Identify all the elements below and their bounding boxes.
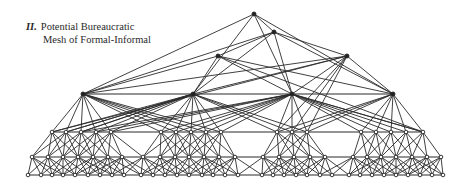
mesh-edge: [83, 32, 274, 94]
mesh-node: [318, 173, 322, 177]
mesh-node: [391, 92, 395, 96]
mesh-edge: [143, 132, 176, 157]
mesh-edge: [391, 94, 393, 132]
mesh-node: [290, 92, 294, 96]
mesh-node: [189, 130, 193, 134]
mesh-node: [394, 173, 398, 177]
mesh-edge: [320, 157, 353, 175]
mesh-node: [223, 173, 227, 177]
mesh-node: [187, 173, 191, 177]
mesh-edge: [279, 132, 292, 157]
bureaucratic-mesh-diagram: [0, 0, 471, 191]
mesh-node: [441, 173, 445, 177]
mesh-node: [26, 173, 30, 177]
mesh-edges: [28, 14, 443, 175]
mesh-edge: [189, 132, 206, 157]
mesh-edge: [160, 132, 176, 157]
mesh-node: [236, 173, 240, 177]
mesh-edge: [279, 132, 307, 157]
mesh-edge: [396, 132, 406, 157]
mesh-edge: [441, 157, 443, 175]
mesh-node: [204, 130, 208, 134]
mesh-node: [30, 155, 34, 159]
mesh-edge: [263, 132, 277, 157]
mesh-node: [382, 173, 386, 177]
mesh-node: [404, 130, 408, 134]
mesh-node: [175, 173, 179, 177]
mesh-node: [410, 155, 414, 159]
mesh-node: [439, 155, 443, 159]
mesh-node: [294, 173, 298, 177]
mesh-edge: [175, 132, 191, 157]
mesh-node: [359, 130, 363, 134]
mesh-edge: [111, 132, 143, 157]
mesh-node: [61, 155, 65, 159]
mesh-node: [217, 155, 221, 159]
mesh-node: [216, 54, 220, 58]
mesh-node: [187, 155, 191, 159]
mesh-node: [347, 173, 351, 177]
mesh-node: [76, 155, 80, 159]
mesh-edge: [204, 132, 221, 157]
mesh-edge: [274, 32, 292, 94]
mesh-node: [173, 155, 177, 159]
mesh-node: [379, 155, 383, 159]
mesh-node: [308, 155, 312, 159]
mesh-node: [109, 130, 113, 134]
mesh-edge: [235, 157, 262, 175]
mesh-node: [425, 155, 429, 159]
mesh-node: [282, 173, 286, 177]
mesh-node: [211, 173, 215, 177]
mesh-node: [406, 173, 410, 177]
mesh-node: [219, 130, 223, 134]
mesh-node: [110, 173, 114, 177]
mesh-node: [61, 173, 65, 177]
mesh-edge: [423, 132, 441, 157]
mesh-node: [233, 155, 237, 159]
mesh-node: [261, 155, 265, 159]
mesh-node: [305, 173, 309, 177]
mesh-node: [358, 173, 362, 177]
mesh-node: [305, 130, 309, 134]
mesh-edge: [221, 94, 292, 132]
mesh-node: [86, 173, 90, 177]
mesh-node: [200, 173, 204, 177]
mesh-node: [290, 130, 294, 134]
mesh-node: [374, 130, 378, 134]
mesh-node: [202, 155, 206, 159]
mesh-node: [351, 155, 355, 159]
mesh-node: [94, 130, 98, 134]
mesh-node: [275, 130, 279, 134]
mesh-node: [73, 173, 77, 177]
mesh-node: [323, 155, 327, 159]
mesh-node: [81, 92, 85, 96]
org-mesh-figure: II.Potential Bureaucratic Mesh of Formal…: [0, 0, 471, 191]
mesh-edge: [52, 94, 83, 132]
mesh-edge: [143, 132, 161, 157]
mesh-edge: [254, 14, 274, 32]
mesh-edge: [221, 132, 235, 157]
mesh-node: [370, 173, 374, 177]
mesh-node: [389, 130, 393, 134]
mesh-edge: [81, 94, 83, 132]
mesh-node: [39, 173, 43, 177]
mesh-node: [277, 155, 281, 159]
mesh-node: [272, 30, 276, 34]
mesh-node: [345, 54, 349, 58]
mesh-edge: [96, 132, 122, 157]
mesh-node: [106, 155, 110, 159]
mesh-edge: [141, 157, 143, 175]
mesh-edge: [238, 157, 263, 175]
mesh-node: [163, 173, 167, 177]
mesh-node: [394, 155, 398, 159]
mesh-node: [120, 155, 124, 159]
mesh-edge: [292, 94, 423, 132]
mesh-node: [174, 130, 178, 134]
mesh-edge: [347, 56, 393, 94]
mesh-edge: [218, 56, 292, 94]
mesh-edge: [189, 132, 221, 157]
mesh-node: [330, 173, 334, 177]
mesh-node: [141, 155, 145, 159]
mesh-node: [260, 173, 264, 177]
mesh-edge: [274, 32, 347, 56]
